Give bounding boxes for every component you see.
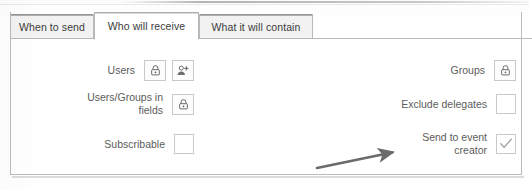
field-label-send-to-event-creator: Send to event creator: [422, 131, 496, 157]
lock-icon: [149, 64, 162, 77]
checkmark-icon: [499, 138, 513, 150]
field-row-send-to-event-creator: Send to event creator: [382, 127, 516, 161]
field-row-subscribable: Subscribable: [18, 127, 194, 161]
field-controls-users: [144, 60, 194, 81]
field-controls-send-to-event-creator: [496, 134, 516, 154]
exclude-delegates-checkbox[interactable]: [496, 94, 516, 114]
tab-bar: When to send Who will receive What it wi…: [10, 12, 522, 39]
tab-label: Who will receive: [108, 20, 185, 32]
users-groups-in-fields-lock-button[interactable]: [172, 94, 194, 115]
users-add-user-button[interactable]: [172, 60, 194, 81]
field-controls-users-groups-in-fields: [172, 94, 194, 115]
field-controls-groups: [494, 60, 516, 81]
field-row-groups: Groups: [382, 53, 516, 87]
tab-label: What it will contain: [212, 21, 301, 33]
tab-panel-who-will-receive: Users: [10, 39, 522, 175]
subscribable-checkbox[interactable]: [174, 134, 194, 154]
field-controls-subscribable: [174, 134, 194, 154]
groups-lock-button[interactable]: [494, 60, 516, 81]
left-field-column: Users: [10, 39, 266, 175]
right-field-column: Groups Exclude delegates: [266, 39, 522, 175]
send-to-event-creator-checkbox[interactable]: [496, 134, 516, 154]
field-label-users-groups-in-fields: Users/Groups in fields: [87, 91, 172, 117]
tab-who-will-receive[interactable]: Who will receive: [94, 12, 199, 40]
lock-icon: [177, 98, 190, 111]
field-label-exclude-delegates: Exclude delegates: [401, 98, 496, 111]
field-row-users: Users: [18, 53, 194, 87]
field-row-exclude-delegates: Exclude delegates: [382, 87, 516, 121]
field-label-groups: Groups: [451, 64, 494, 77]
add-user-icon: [176, 64, 190, 77]
field-label-users: Users: [108, 64, 144, 77]
scan-artifact-line-top-secondary: [0, 4, 529, 5]
field-label-subscribable: Subscribable: [104, 138, 174, 151]
scan-artifact-line-top: [120, 1, 529, 3]
field-row-users-groups-in-fields: Users/Groups in fields: [18, 87, 194, 121]
tab-what-it-will-contain[interactable]: What it will contain: [199, 14, 313, 39]
users-lock-button[interactable]: [144, 60, 166, 81]
tab-label: When to send: [19, 21, 85, 33]
lock-icon: [499, 64, 512, 77]
tab-when-to-send[interactable]: When to send: [10, 14, 94, 39]
panel-bottom-shadow: [12, 176, 524, 178]
field-controls-exclude-delegates: [496, 94, 516, 114]
